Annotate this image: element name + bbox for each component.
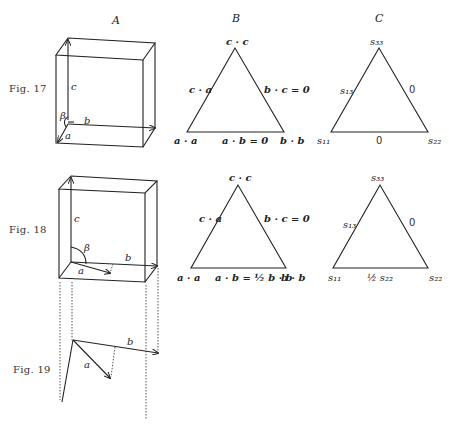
column-header-c: C [375,12,384,25]
fig17-b-left-side: c · a [189,84,212,95]
fig17-b-bottom-left: a · a [174,135,197,146]
fig17-c-bottom: 0 [376,135,382,146]
fig17-b-right-side: b · c = 0 [264,84,310,95]
fig18-b-bottom-left: a · a [177,272,200,283]
fig18-label: Fig. 18 [9,224,47,235]
fig17-b-bottom: a · b = 0 [222,135,268,146]
b-axis-arrow [68,124,155,128]
column-header-a: A [111,14,120,27]
fig18-box [59,176,157,282]
fig18-triangle-b [191,185,286,268]
fig19-label: Fig. 19 [13,364,51,375]
fig18-c-right-side: 0 [409,217,415,228]
fig17-b-top: c · c [226,36,249,47]
fig17-c-right-side: 0 [409,84,415,95]
fig18-label-c: c [74,213,80,224]
fig17-label-c: c [71,81,77,92]
fig18-b-bottom-right: b · b [281,272,305,283]
fig17-c-top: s₃₃ [370,36,383,47]
fig18-c-bottom: ½ s₂₂ [367,272,393,283]
column-header-b: B [231,12,240,25]
fig18-b-left-side: c · a [199,213,222,224]
fig17-label-a: a [65,130,71,141]
fig18-label-a: a [78,265,84,276]
fig18-label-b: b [125,252,131,263]
a-vector-arrow [73,340,110,378]
b-vector-arrow [73,340,158,353]
fig18-b-right-side: b · c = 0 [264,213,310,224]
fig18-b-top: c · c [229,172,252,183]
fig19-vectors [62,340,158,402]
fig17-label: Fig. 17 [9,83,47,94]
fig18-c-left-side: s₁₃ [343,219,356,230]
fig18-c-top: s₃₃ [371,172,384,183]
fig17-label-beta: β [59,110,66,121]
crystal-diagram: A B C Fig. 17 c b a β c · c c · a b · c … [0,0,449,424]
fig18-c-bottom-right: s₂₂ [429,272,442,283]
fig19-label-b: b [127,336,133,347]
projection-lines [60,268,158,420]
fig17-label-b: b [84,115,90,126]
fig17-b-bottom-right: b · b [280,135,304,146]
fig17-c-bottom-right: s₂₂ [428,135,441,146]
fig17-c-bottom-left: s₁₁ [317,135,330,146]
fig18-label-beta: β [83,242,90,253]
fig19-label-a: a [84,359,90,370]
fig18-c-bottom-left: s₁₁ [328,272,341,283]
fig17-c-left-side: s₁₃ [340,85,353,96]
